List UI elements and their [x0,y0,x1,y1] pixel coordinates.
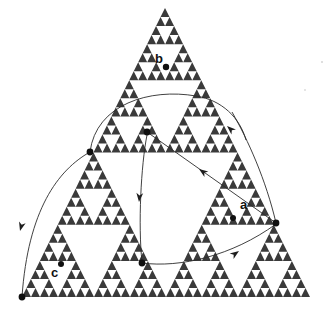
point-bottom-center [139,260,146,267]
point-a [230,215,236,221]
point-center-upper [144,129,151,136]
point-c [58,261,64,267]
point-bottom-left-vertex [19,294,26,301]
speck-artifact [321,61,323,63]
point-b [163,64,169,70]
point-label-b: b [155,51,163,66]
point-label-a: a [240,197,248,212]
speck-artifact [304,89,306,91]
point-label-c: c [51,265,58,280]
point-right-vertex [273,220,280,227]
figure-background [0,0,330,309]
figure-canvas: b a c [0,0,330,309]
point-left-mid [87,149,94,156]
sierpinski-figure: b a c [0,0,330,309]
